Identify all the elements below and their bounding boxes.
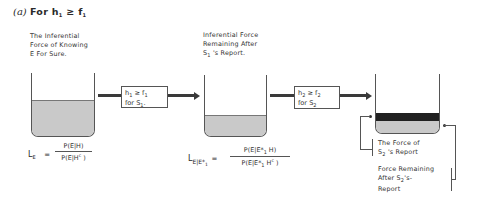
t2-sub-f: 2	[317, 92, 320, 98]
stage2-equals: =	[212, 155, 218, 163]
arrow1-head-icon	[194, 92, 200, 100]
transform2-line2: for S2	[298, 99, 336, 109]
transform1-line2: for S1.	[125, 99, 164, 109]
panel-title: (a) For h1 ≥ f1	[13, 6, 86, 18]
force-of-report-label: The Force of S2 's Report	[378, 139, 420, 159]
remaining-label-line3: Report	[378, 185, 434, 194]
s2-num-pre: P(E|E*	[244, 146, 264, 154]
remaining-bracket-tick	[451, 168, 452, 191]
s2-den-post: )	[274, 159, 279, 167]
transform1-line1: h1 ≥ f1	[125, 89, 164, 99]
t1-for-s: for S	[125, 99, 140, 107]
stage2-caption-line1: Inferential Force	[203, 31, 258, 40]
heading-prefix: For	[30, 6, 52, 17]
force-bracket-bottom	[360, 149, 372, 150]
arrow2-head-icon	[366, 92, 372, 100]
stage3-report-force-band	[376, 113, 439, 121]
stage1-denominator-end: )	[81, 154, 86, 162]
panel-heading: For h1 ≥ f1	[30, 6, 86, 17]
heading-var-h: h	[52, 6, 59, 17]
t2-rel: ≥	[305, 89, 315, 97]
stage3-remaining-fill	[376, 120, 439, 133]
remaining-bracket-top	[444, 125, 455, 126]
arrow2-tail	[270, 94, 294, 97]
stage3-beaker	[375, 74, 440, 134]
remaining-label-after-s: After S	[378, 174, 401, 182]
force-label-line2: S2 's Report	[378, 148, 420, 159]
transform2-line1: h2 ≥ f2	[298, 89, 336, 99]
heading-relation: ≥	[63, 6, 78, 17]
transform2-box: h2 ≥ f2 for S2	[294, 86, 340, 109]
stage1-equals: =	[44, 151, 50, 159]
stage2-caption-line3: S1 's Report.	[203, 49, 258, 60]
stage1-fraction: P(E|H) P(E|Hc )	[55, 142, 92, 162]
stage2-fraction: P(E|E*1 H) P(E|E*1 Hc )	[230, 146, 290, 168]
t1-period: .	[144, 99, 146, 107]
stage2-numerator: P(E|E*1 H)	[230, 146, 290, 157]
stage1-caption-line3: E For Sure.	[30, 50, 88, 59]
force-bracket-tick	[372, 139, 373, 156]
stage1-formula-lhs: LE =	[28, 150, 50, 160]
remaining-bracket-join	[452, 179, 455, 180]
force-bracket-top	[360, 116, 370, 117]
stage1-numerator: P(E|H)	[55, 142, 92, 152]
panel-label: (a)	[13, 6, 27, 17]
stage1-beaker-fill	[32, 100, 94, 136]
stage2-beaker-fill	[205, 115, 266, 136]
remaining-bracket-vertical	[455, 125, 456, 180]
stage2-cap-suffix: 's Report.	[211, 49, 246, 57]
arrow1-tail	[98, 94, 121, 97]
stage2-formula-lhs: LE|E*1 =	[188, 154, 217, 167]
force-label-suffix: 's Report	[386, 148, 418, 156]
force-label-line1: The Force of	[378, 139, 420, 148]
stage1-denominator-base: P(E|H	[61, 154, 78, 162]
heading-sub-f: 1	[83, 12, 87, 18]
s2-num-post: H)	[267, 146, 276, 154]
arrow2-shaft	[340, 94, 366, 97]
transform1-box: h1 ≥ f1 for S1.	[121, 86, 168, 108]
stage2-beaker	[204, 75, 267, 137]
s2-den-pre: P(E|E*	[242, 159, 262, 167]
t1-sub-f: 1	[144, 92, 147, 98]
t2-s-sub: 2	[313, 102, 316, 108]
remaining-label-line1: Force Remaining	[378, 165, 434, 174]
stage2-lhs-sub: E|E*	[192, 158, 205, 165]
stage1-beaker	[31, 73, 95, 137]
stage1-caption-line2: Force of Knowing	[30, 41, 88, 50]
stage1-lhs-sub: E	[32, 154, 35, 160]
stage2-denominator: P(E|E*1 Hc )	[230, 157, 290, 168]
stage2-caption: Inferential Force Remaining After S1 's …	[203, 31, 258, 60]
stage1-denominator: P(E|Hc )	[55, 152, 92, 162]
stage1-caption: The Inferential Force of Knowing E For S…	[30, 32, 88, 59]
t1-rel: ≥	[132, 89, 142, 97]
stage1-caption-line1: The Inferential	[30, 32, 88, 41]
force-remaining-label: Force Remaining After S2's- Report	[378, 165, 434, 194]
t2-for-s: for S	[298, 99, 313, 107]
stage2-lhs-sub2: 1	[205, 162, 208, 167]
stage2-caption-line2: Remaining After	[203, 40, 258, 49]
arrow1-shaft	[168, 94, 194, 97]
remaining-label-line2: After S2's-	[378, 174, 434, 185]
remaining-label-suffix: 's-	[404, 174, 412, 182]
force-bracket-vertical	[360, 116, 361, 149]
